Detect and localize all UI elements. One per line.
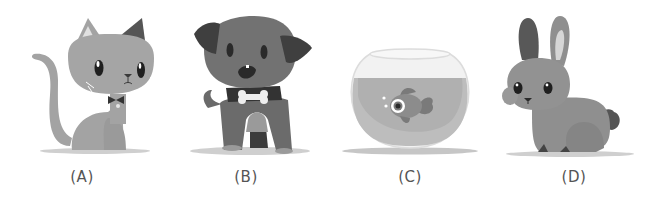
- fishbowl-icon: [328, 0, 492, 165]
- rabbit-icon: [492, 0, 656, 165]
- panel-label-d: (D): [492, 168, 656, 186]
- cat-icon: [0, 0, 164, 165]
- panel-a: (A): [0, 0, 164, 199]
- panel-label-a: (A): [0, 168, 164, 186]
- panel-label-c: (C): [328, 168, 492, 186]
- panel-d: (D): [492, 0, 656, 199]
- panel-c: (C): [328, 0, 492, 199]
- panel-label-b: (B): [164, 168, 328, 186]
- dog-icon: [164, 0, 328, 165]
- panel-b: (B): [164, 0, 328, 199]
